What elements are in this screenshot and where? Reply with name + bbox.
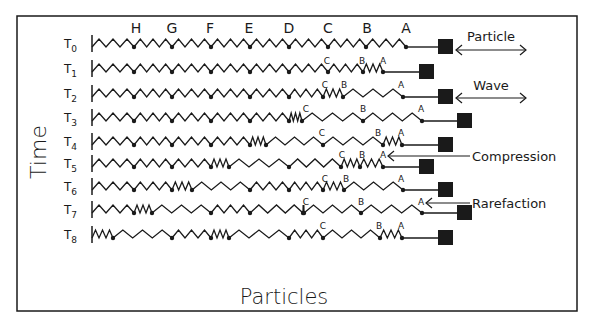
x-axis-label: Particles (240, 285, 329, 309)
driver-block-icon (438, 182, 453, 197)
particle-node (248, 143, 252, 147)
driver-block-icon (438, 137, 453, 152)
particle-label-b: B (362, 20, 372, 36)
driver-block-icon (438, 230, 453, 245)
node-label-b: B (343, 174, 349, 184)
particle-label-e: E (245, 20, 254, 36)
particle-node (170, 70, 174, 74)
particle-node (287, 70, 291, 74)
node-label-b: B (360, 104, 366, 114)
particle-node (227, 236, 231, 240)
driver-block-icon (438, 39, 453, 54)
particle-label-a: A (401, 20, 411, 36)
driver-block-icon (438, 89, 453, 104)
particle-node (209, 70, 213, 74)
particle-node (132, 143, 136, 147)
particle-node (209, 143, 213, 147)
particle-node (170, 95, 174, 99)
particle-node (132, 119, 136, 123)
particle-node (378, 236, 382, 240)
driver-block-icon (419, 64, 434, 79)
node-label-a: A (418, 197, 425, 207)
particle-label-g: G (167, 20, 178, 36)
particle-node (361, 119, 365, 123)
node-label-a: A (380, 56, 387, 66)
legend-particle-label: Particle (467, 29, 515, 44)
particle-node (321, 188, 325, 192)
particle-node (227, 165, 231, 169)
particle-node (359, 211, 363, 215)
particle-node (170, 45, 174, 49)
particle-node (339, 165, 343, 169)
compression-label: Compression (472, 149, 556, 164)
particle-node (248, 70, 252, 74)
particle-node (170, 236, 174, 240)
particle-node (132, 211, 136, 215)
driver-block-icon (419, 159, 434, 174)
node-label-c: C (303, 104, 309, 114)
node-label-a: A (418, 104, 425, 114)
particle-label-h: H (131, 20, 142, 36)
particle-node (287, 45, 291, 49)
particle-node (381, 143, 385, 147)
particle-node (209, 45, 213, 49)
particle-node (342, 188, 346, 192)
particle-node (287, 95, 291, 99)
particle-node (287, 236, 291, 240)
node-label-c: C (319, 128, 325, 138)
particle-node (302, 211, 306, 215)
particle-node (170, 119, 174, 123)
node-label-a: A (398, 221, 405, 231)
particle-label-f: F (206, 20, 214, 36)
particle-node (326, 45, 330, 49)
particle-node (170, 143, 174, 147)
node-label-b: B (375, 128, 381, 138)
longitudinal-wave-diagram: Time Particles HGFEDCBA T0T1CBAT2CBAT3CB… (0, 0, 592, 329)
node-label-a: A (380, 150, 387, 160)
particle-node (132, 45, 136, 49)
node-label-a: A (398, 174, 405, 184)
particle-node (132, 188, 136, 192)
node-label-b: B (376, 221, 382, 231)
particle-label-c: C (323, 20, 333, 36)
particle-node (321, 143, 325, 147)
driver-block-icon (457, 113, 472, 128)
node-label-c: C (339, 150, 345, 160)
particle-node (209, 211, 213, 215)
rarefaction-label: Rarefaction (472, 196, 546, 211)
node-label-c: C (322, 80, 328, 90)
particle-node (132, 165, 136, 169)
particle-node (248, 211, 252, 215)
particle-node (132, 70, 136, 74)
particle-node (248, 188, 252, 192)
particle-node (209, 165, 213, 169)
particle-node (358, 165, 362, 169)
particle-node (248, 119, 252, 123)
particle-node (321, 95, 325, 99)
node-label-c: C (322, 174, 328, 184)
particle-node (209, 119, 213, 123)
particle-node (361, 70, 365, 74)
particle-node (287, 188, 291, 192)
node-label-c: C (303, 197, 309, 207)
particle-node (209, 95, 213, 99)
driver-block-icon (457, 205, 472, 220)
particle-node (287, 119, 291, 123)
particle-label-d: D (284, 20, 295, 36)
node-label-b: B (358, 197, 364, 207)
node-label-a: A (398, 128, 405, 138)
particle-node (170, 188, 174, 192)
particle-node (321, 236, 325, 240)
particle-node (287, 165, 291, 169)
particle-node (264, 143, 268, 147)
legend-wave-label: Wave (473, 78, 509, 93)
particle-node (300, 119, 304, 123)
particle-node (170, 165, 174, 169)
node-label-b: B (359, 56, 365, 66)
particle-node (248, 45, 252, 49)
particle-node (190, 188, 194, 192)
node-label-a: A (398, 80, 405, 90)
node-label-c: C (320, 221, 326, 231)
particle-node (364, 45, 368, 49)
node-label-b: B (359, 150, 365, 160)
